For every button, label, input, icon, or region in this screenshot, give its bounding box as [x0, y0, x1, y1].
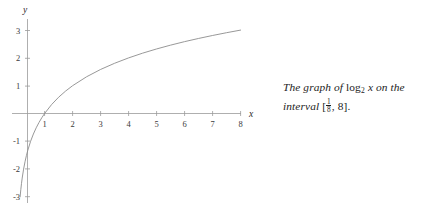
y-tick-label-3: 3: [16, 26, 20, 36]
y-axis-label: y: [22, 5, 28, 15]
chart-svg: 3 2 1 -1 -2 -3 1 2 3 4 5 6 7 8 y x: [0, 0, 270, 203]
x-tick-label-1: 1: [42, 119, 46, 129]
x-tick-label-5: 5: [154, 119, 158, 129]
y-tick-label-neg2: -2: [13, 164, 20, 174]
x-tick-label-7: 7: [210, 119, 214, 129]
y-tick-label-neg1: -1: [13, 136, 20, 146]
caption-interval-word: interval: [283, 100, 319, 112]
x-tick-label-2: 2: [70, 119, 74, 129]
caption-text-part2: on the: [373, 81, 405, 93]
caption-log-name: log: [346, 81, 361, 93]
x-tick-label-8: 8: [238, 119, 242, 129]
fraction-denominator: 8: [326, 106, 331, 114]
x-tick-label-4: 4: [126, 119, 131, 129]
y-tick-label-2: 2: [16, 53, 20, 63]
x-tick-label-6: 6: [182, 119, 186, 129]
x-tick-label-3: 3: [98, 119, 102, 129]
caption-text-part1: The graph of: [283, 81, 346, 93]
y-tick-label-1: 1: [16, 81, 20, 91]
figure-caption: The graph of log2 x on the interval [18,…: [283, 80, 441, 114]
log2-graph-figure: 3 2 1 -1 -2 -3 1 2 3 4 5 6 7 8 y x: [0, 0, 270, 203]
y-tick-label-neg3: -3: [13, 192, 20, 202]
caption-bracket-close: ].: [344, 100, 351, 112]
caption-log-base: 2: [361, 86, 365, 95]
x-axis-label: x: [248, 109, 254, 119]
